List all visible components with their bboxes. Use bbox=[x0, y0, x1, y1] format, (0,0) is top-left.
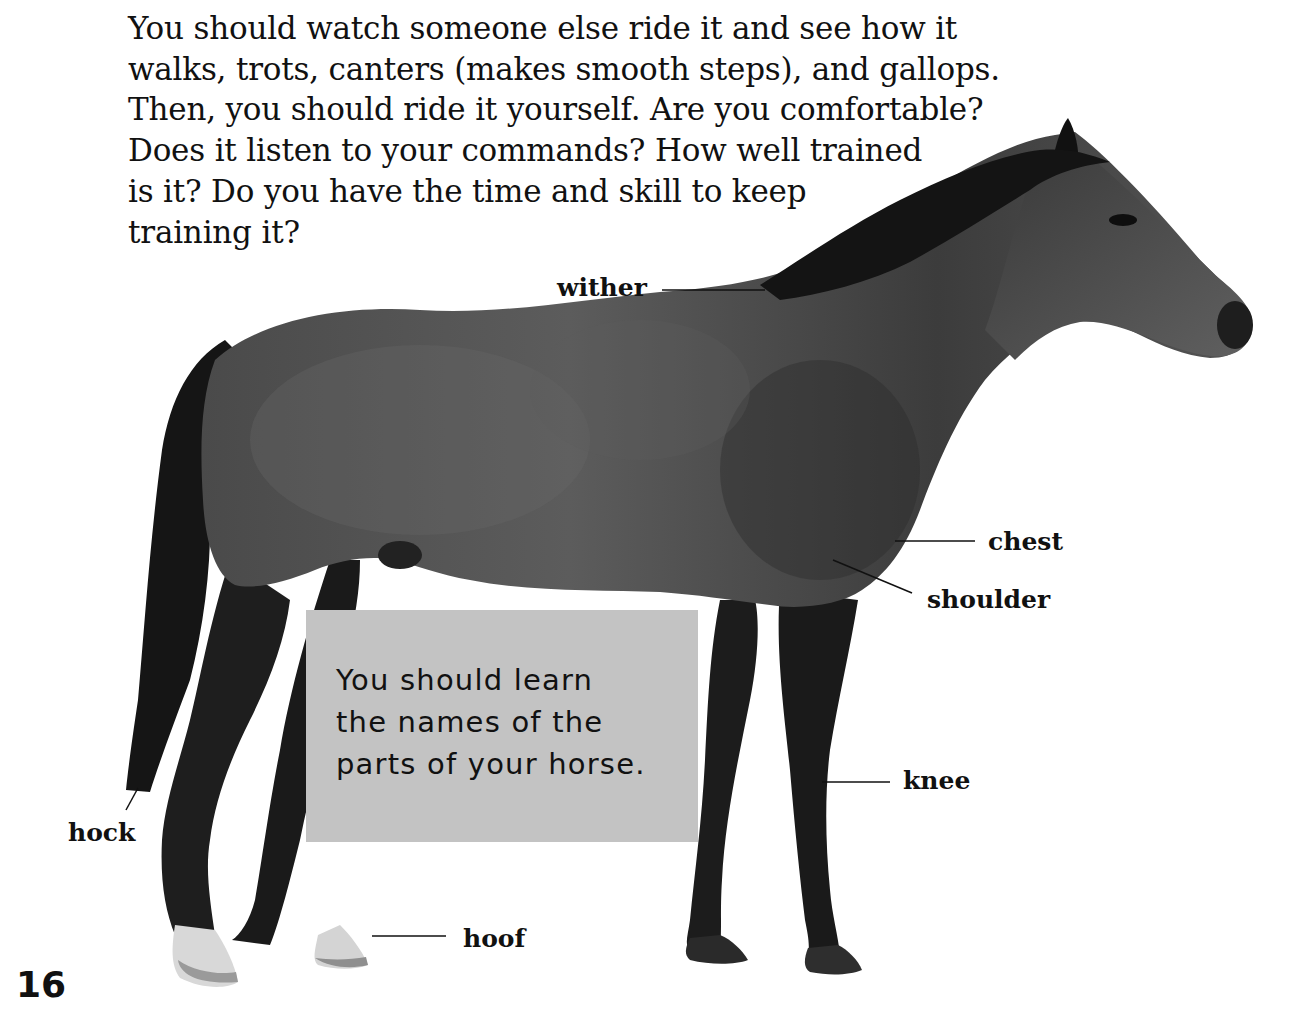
label-hoof: hoof bbox=[463, 924, 525, 953]
hock-leader-line bbox=[126, 788, 138, 810]
page-number: 16 bbox=[16, 964, 66, 1005]
label-hock: hock bbox=[68, 818, 135, 847]
leader-lines bbox=[0, 0, 1303, 1031]
label-chest: chest bbox=[988, 527, 1063, 556]
label-knee: knee bbox=[903, 766, 970, 795]
shoulder-leader-line bbox=[833, 560, 912, 593]
label-shoulder: shoulder bbox=[927, 585, 1050, 614]
label-wither: wither bbox=[557, 273, 647, 302]
